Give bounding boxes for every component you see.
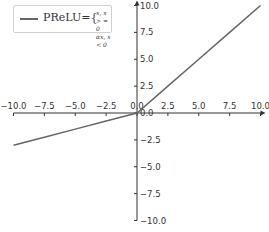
x-tick-label: 7.5 — [223, 101, 237, 111]
x-tick-label: −2.5 — [96, 101, 117, 111]
y-axis-arrow-icon — [135, 1, 140, 6]
x-tick-label: 10.0 — [251, 101, 269, 111]
prelu-chart: −10.0−7.5−5.0−2.50.02.55.07.510.010.07.5… — [0, 0, 269, 232]
legend-case-positive: x, x > = 0 — [96, 9, 111, 33]
x-tick-label: −10.0 — [0, 101, 26, 111]
y-tick-label: −5.0 — [140, 162, 161, 172]
y-tick-label: −7.5 — [140, 189, 161, 199]
legend-case-negative: αx, x < 0 — [96, 33, 111, 49]
y-tick-label: 10.0 — [140, 1, 159, 11]
x-tick-label: −5.0 — [65, 101, 86, 111]
legend: PReLU={ x, x > = 0 αx, x < 0 — [13, 5, 112, 33]
x-tick-label: 2.5 — [161, 101, 175, 111]
legend-line-swatch — [20, 18, 38, 20]
x-axis-arrow-icon — [261, 111, 266, 116]
y-tick-label: 5.0 — [140, 54, 154, 64]
x-tick-label: −7.5 — [34, 101, 55, 111]
y-tick-label: −10.0 — [140, 216, 166, 226]
legend-label: PReLU={ — [43, 11, 97, 24]
y-tick-label: 7.5 — [140, 27, 154, 37]
x-tick-label: 5.0 — [192, 101, 206, 111]
y-tick-label: −2.5 — [140, 135, 161, 145]
legend-cases: x, x > = 0 αx, x < 0 — [96, 9, 111, 49]
y-tick-label: 2.5 — [140, 81, 154, 91]
